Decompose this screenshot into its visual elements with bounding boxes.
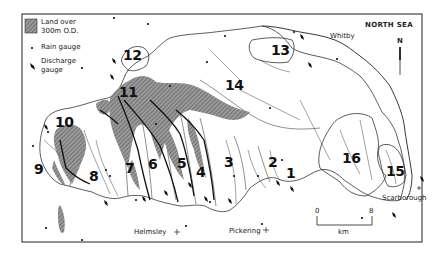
sea-label: NORTH SEA <box>365 22 413 29</box>
legend-hatch-swatch <box>25 19 37 33</box>
catchment-label-9: 9 <box>34 162 43 176</box>
north-label: N <box>397 38 403 45</box>
scale-end-label: 8 <box>369 208 373 215</box>
legend-label-land-line2: 300m O.D. <box>41 28 78 35</box>
map-frame <box>22 14 422 242</box>
place-pickering: Pickering <box>229 228 261 235</box>
legend-label-land-line1: Land over <box>41 19 76 26</box>
catchment-label-15: 15 <box>386 164 404 178</box>
legend-label-discharge-line2: gauge <box>41 67 63 74</box>
legend-discharge-diamond <box>30 63 35 70</box>
place-whitby: Whitby <box>330 33 355 40</box>
scale-start-label: 0 <box>315 208 319 215</box>
high-ground-over-300m <box>52 76 250 233</box>
place-scarborough: Scarborough <box>382 195 427 202</box>
catchment-label-4: 4 <box>196 165 205 179</box>
catchment-label-12: 12 <box>123 48 141 62</box>
catchment-label-13: 13 <box>271 43 289 57</box>
legend <box>25 19 37 70</box>
place-helmsley: Helmsley <box>134 229 166 236</box>
catchment-label-16: 16 <box>342 151 360 165</box>
catchment-label-3: 3 <box>224 155 233 169</box>
catchment-label-8: 8 <box>89 169 98 183</box>
legend-label-rain-gauge: Rain gauge <box>41 44 81 51</box>
catchment-label-11: 11 <box>119 85 137 99</box>
scale-unit-label: km <box>338 229 349 236</box>
catchment-label-5: 5 <box>177 156 186 170</box>
catchment-label-10: 10 <box>55 115 73 129</box>
catchment-label-2: 2 <box>268 155 277 169</box>
catchment-label-1: 1 <box>286 166 295 180</box>
catchment-label-14: 14 <box>225 78 243 92</box>
legend-label-discharge-line1: Discharge <box>41 58 76 65</box>
catchment-label-6: 6 <box>148 157 157 171</box>
scale-bar <box>317 216 372 225</box>
legend-rain-gauge-dot <box>31 47 33 49</box>
catchment-label-7: 7 <box>125 161 134 175</box>
rain-gauges <box>32 17 363 241</box>
